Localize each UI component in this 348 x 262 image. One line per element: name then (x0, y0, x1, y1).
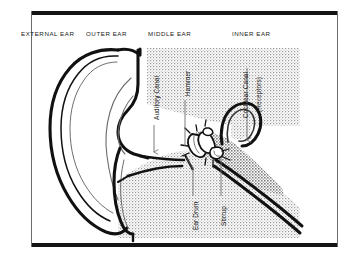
skull-tissue-lower (118, 150, 300, 238)
callout-label-ear-drum: Ear Drum (192, 201, 199, 230)
ear-anatomy-drawing (0, 0, 348, 262)
callout-label-cochlear-canal-receptors: (Receptors) (255, 77, 262, 112)
callout-label-stirrup: Stirrup (220, 206, 227, 226)
callout-label-hammer: Hammer (184, 71, 191, 96)
skull-tissue-upper (147, 48, 300, 126)
callout-label-cochlear-canal: Cochlear Canal (242, 72, 249, 118)
callout-label-auditory-canal: Auditory Canal (153, 76, 160, 120)
ear-anatomy-figure: EXTERNAL EAR OUTER EAR MIDDLE EAR INNER … (0, 0, 348, 262)
